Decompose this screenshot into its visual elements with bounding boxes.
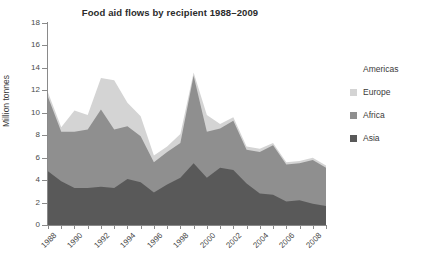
legend-label: Europe [363, 87, 390, 97]
legend-swatch-icon [350, 112, 357, 119]
legend-item-asia[interactable]: Asia [350, 132, 420, 144]
x-tick-mark [220, 225, 221, 229]
x-tick-mark [326, 225, 327, 229]
x-tick-mark [114, 225, 115, 229]
y-tick-label: 12 [2, 86, 40, 94]
x-tick-mark [127, 225, 128, 229]
x-tick-mark [247, 225, 248, 229]
y-tick-label: 16 [2, 41, 40, 49]
y-tick-label: 2 [2, 199, 40, 207]
y-tick-label: 8 [2, 131, 40, 139]
y-axis-title: Million tonnes [1, 41, 11, 161]
chart-container: Food aid flows by recipient 1988–2009 Mi… [0, 0, 421, 272]
x-tick-mark [88, 225, 89, 229]
legend-swatch-icon [350, 89, 357, 96]
legend-item-europe[interactable]: Europe [350, 86, 420, 98]
x-tick-mark [74, 225, 75, 229]
stacked-area-svg [48, 23, 326, 225]
x-tick-label: 1994 [112, 231, 138, 257]
y-tick-label: 14 [2, 64, 40, 72]
x-tick-mark [286, 225, 287, 229]
legend-item-africa[interactable]: Africa [350, 109, 420, 121]
chart-legend: AmericasEuropeAfricaAsia [350, 63, 420, 155]
legend-label: Americas [363, 64, 398, 74]
plot-area [48, 23, 326, 225]
x-tick-mark [48, 225, 49, 229]
y-tick-label: 4 [2, 176, 40, 184]
x-tick-label: 1998 [165, 231, 191, 257]
x-tick-label: 2008 [297, 231, 323, 257]
legend-label: Africa [363, 110, 385, 120]
y-tick-label: 6 [2, 154, 40, 162]
legend-swatch-icon [350, 66, 357, 73]
x-tick-label: 1990 [59, 231, 85, 257]
x-tick-mark [141, 225, 142, 229]
x-tick-label: 1992 [85, 231, 111, 257]
x-tick-mark [233, 225, 234, 229]
x-tick-mark [300, 225, 301, 229]
x-tick-mark [61, 225, 62, 229]
x-tick-mark [180, 225, 181, 229]
x-tick-mark [313, 225, 314, 229]
x-tick-label: 2000 [191, 231, 217, 257]
legend-item-americas[interactable]: Americas [350, 63, 420, 75]
legend-label: Asia [363, 133, 380, 143]
x-tick-mark [194, 225, 195, 229]
y-tick-label: 10 [2, 109, 40, 117]
y-tick-label: 0 [2, 221, 40, 229]
chart-title: Food aid flows by recipient 1988–2009 [0, 7, 340, 18]
x-tick-label: 2002 [218, 231, 244, 257]
legend-swatch-icon [350, 135, 357, 142]
x-tick-mark [273, 225, 274, 229]
x-tick-label: 1996 [138, 231, 164, 257]
y-tick-label: 18 [2, 19, 40, 27]
x-tick-mark [260, 225, 261, 229]
x-tick-label: 2006 [270, 231, 296, 257]
x-tick-label: 1988 [32, 231, 58, 257]
x-tick-mark [167, 225, 168, 229]
x-tick-label: 2004 [244, 231, 270, 257]
x-tick-mark [207, 225, 208, 229]
x-axis-line [47, 225, 327, 226]
x-tick-mark [101, 225, 102, 229]
x-tick-mark [154, 225, 155, 229]
